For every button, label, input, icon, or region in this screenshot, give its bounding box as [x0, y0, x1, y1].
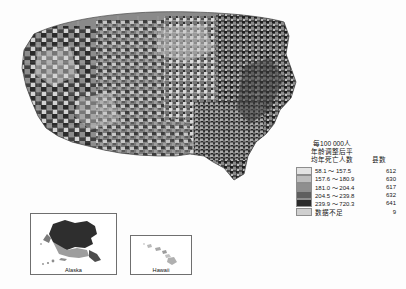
main-map-contiguous-us — [8, 6, 300, 186]
legend-title-line-3: 均年死亡人数 — [296, 156, 368, 164]
inset-map-alaska: Alaska — [30, 213, 117, 275]
legend-title-line-1: 每100 000人 — [296, 140, 368, 148]
inset-map-hawaii: Hawaii — [130, 235, 192, 275]
hawaiian-islands — [143, 243, 177, 265]
aleutian-islands — [42, 258, 67, 265]
counts-header: 县数 — [362, 156, 398, 164]
county-count-column: 县数 612 630 617 632 641 9 — [362, 140, 398, 216]
legend-class-list: 58.1 ～ 157.5 157.6 ～ 180.9 181.0 ～ 204.4… — [296, 167, 368, 216]
legend: 每100 000人 年龄调整后平 均年死亡人数 58.1 ～ 157.5 157… — [296, 140, 368, 216]
legend-swatch-class-1 — [296, 167, 312, 175]
legend-swatch-no-data — [296, 208, 312, 216]
alaska-southeast-panhandle — [89, 250, 101, 262]
inset-label-alaska: Alaska — [31, 267, 116, 273]
count-no-data: 9 — [362, 208, 398, 216]
legend-item: 数据不足 — [296, 208, 368, 216]
legend-swatch-class-3 — [296, 183, 312, 191]
us-counties-choropleth — [8, 6, 300, 186]
county-polygons — [8, 6, 300, 186]
alaska-choropleth — [31, 214, 116, 274]
inset-label-hawaii: Hawaii — [131, 267, 191, 273]
legend-swatch-class-2 — [296, 175, 312, 183]
count-class-5: 641 — [362, 199, 398, 207]
figure-canvas: 每100 000人 年龄调整后平 均年死亡人数 58.1 ～ 157.5 157… — [0, 0, 406, 289]
count-class-1: 612 — [362, 167, 398, 175]
counts-value-list: 612 630 617 632 641 9 — [362, 167, 398, 216]
alaska-island-dot — [40, 243, 42, 245]
legend-swatch-class-4 — [296, 191, 312, 199]
legend-swatch-class-5 — [296, 199, 312, 207]
count-class-2: 630 — [362, 175, 398, 183]
count-class-4: 632 — [362, 191, 398, 199]
legend-label-no-data: 数据不足 — [315, 207, 343, 217]
count-class-3: 617 — [362, 183, 398, 191]
counts-spacer — [362, 140, 398, 156]
